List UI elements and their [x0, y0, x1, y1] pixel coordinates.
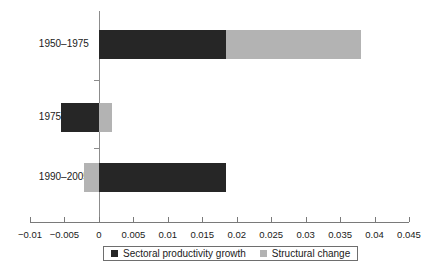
x-axis-tick-11 [409, 217, 410, 222]
legend-entry-sectoral-productivity-growth: Sectoral productivity growth [111, 248, 246, 260]
x-axis-tick-2 [99, 217, 100, 222]
bar-segment-2-1 [84, 163, 99, 192]
legend-entry-structural-change: Structural change [260, 248, 350, 260]
x-axis-tick-0 [30, 217, 31, 222]
bar-segment-1-1 [99, 103, 112, 132]
legend-label: Structural change [272, 248, 350, 260]
x-axis-tick-9 [340, 217, 341, 222]
category-label-2: 1990–2005 [10, 171, 89, 183]
x-axis-tick-6 [237, 217, 238, 222]
x-axis-tick-7 [271, 217, 272, 222]
legend-label: Sectoral productivity growth [123, 248, 246, 260]
bar-segment-0-1 [226, 30, 360, 59]
x-axis-tick-8 [306, 217, 307, 222]
x-axis-tick-1 [64, 217, 65, 222]
category-label-0: 1950–1975 [10, 38, 89, 50]
chart-legend: Sectoral productivity growth Structural … [103, 246, 358, 261]
x-axis-line [30, 222, 409, 223]
square-light-icon [260, 250, 267, 257]
x-axis-tick-3 [133, 217, 134, 222]
bar-segment-2-0 [99, 163, 226, 192]
x-axis-tick-5 [202, 217, 203, 222]
y-axis-tick-0 [94, 80, 99, 81]
stacked-bar-chart: −0.01−0.00500.0050.010.0150.020.0250.030… [0, 0, 441, 271]
x-axis-tick-10 [375, 217, 376, 222]
bar-segment-1-0 [61, 103, 99, 132]
x-axis-tick-label-11: 0.045 [379, 229, 439, 240]
x-axis-tick-4 [168, 217, 169, 222]
plot-area: −0.01−0.00500.0050.010.0150.020.0250.030… [0, 0, 441, 271]
square-dark-icon [111, 250, 118, 257]
bar-segment-0-0 [99, 30, 226, 59]
y-axis-tick-1 [94, 148, 99, 149]
